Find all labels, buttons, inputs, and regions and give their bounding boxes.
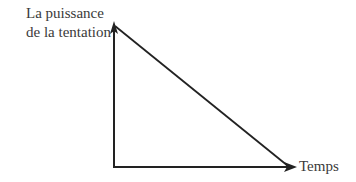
diagram-canvas: [0, 0, 356, 182]
decline-line: [115, 26, 288, 166]
x-axis-label: Temps: [299, 157, 339, 176]
